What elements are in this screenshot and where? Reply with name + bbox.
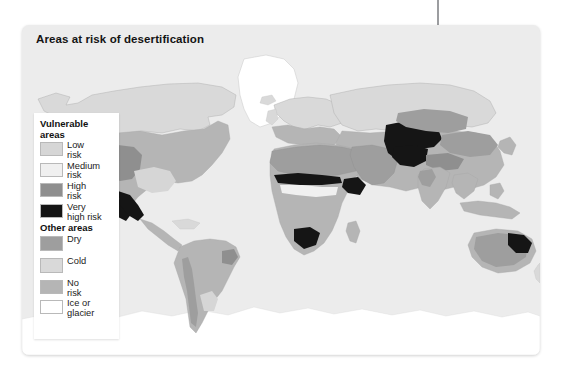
legend-item-no-risk[interactable]: No risk bbox=[40, 279, 115, 299]
screenshot-root: Areas at risk of desertification bbox=[0, 0, 561, 380]
legend-item-ice-or-glacier[interactable]: Ice or glacier bbox=[40, 299, 115, 319]
legend-group-title-vulnerable: Vulnerable areas bbox=[40, 119, 115, 140]
legend-swatch-high-risk bbox=[40, 183, 63, 197]
legend-item-dry[interactable]: Dry bbox=[40, 235, 115, 256]
legend-swatch-low-risk bbox=[40, 142, 63, 156]
legend-swatch-very-high-risk bbox=[40, 204, 63, 218]
legend-item-very-high-risk[interactable]: Very high risk bbox=[40, 203, 115, 223]
legend-item-low-risk[interactable]: Low risk bbox=[40, 141, 115, 161]
legend-label-high-risk: High risk bbox=[67, 182, 86, 202]
legend-label-cold: Cold bbox=[67, 257, 86, 267]
page-title: Areas at risk of desertification bbox=[36, 33, 204, 45]
legend-group-title-other: Other areas bbox=[40, 223, 115, 234]
legend-swatch-no-risk bbox=[40, 280, 63, 294]
legend-item-medium-risk[interactable]: Medium risk bbox=[40, 162, 115, 182]
legend-label-medium-risk: Medium risk bbox=[67, 162, 100, 182]
map-legend: Vulnerable areas Low risk Medium risk Hi… bbox=[34, 113, 119, 339]
legend-swatch-cold bbox=[40, 258, 63, 273]
legend-label-dry: Dry bbox=[67, 235, 81, 245]
legend-label-no-risk: No risk bbox=[67, 279, 81, 299]
legend-inner: Vulnerable areas Low risk Medium risk Hi… bbox=[34, 113, 119, 324]
map-panel: Areas at risk of desertification bbox=[22, 25, 540, 355]
region-sahara-dry bbox=[270, 145, 364, 177]
legend-swatch-medium-risk bbox=[40, 163, 63, 177]
legend-label-low-risk: Low risk bbox=[67, 141, 84, 161]
legend-swatch-dry bbox=[40, 236, 63, 251]
legend-label-very-high-risk: Very high risk bbox=[67, 203, 102, 223]
legend-label-ice-or-glacier: Ice or glacier bbox=[67, 299, 94, 319]
legend-item-high-risk[interactable]: High risk bbox=[40, 182, 115, 202]
callout-leader-line bbox=[437, 0, 439, 28]
legend-swatch-ice-or-glacier bbox=[40, 300, 63, 314]
legend-item-cold[interactable]: Cold bbox=[40, 257, 115, 278]
